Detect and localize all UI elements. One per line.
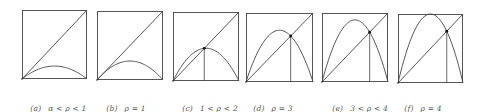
panel-c [173,12,239,81]
fixed-point-dot [203,47,206,50]
plot-c [173,12,239,81]
logistic-curve [246,30,313,82]
diagonal-line [97,11,163,80]
caption-tag: (c) [182,104,193,112]
plot-a [22,10,87,79]
logistic-curve [173,48,239,81]
origin-dot [245,81,247,83]
origin-dot [321,81,323,83]
plot-d [246,13,313,82]
fixed-point-dot [445,30,448,33]
caption-condition: ρ = 3 [272,104,293,112]
plot-e [322,13,388,82]
panel-a [22,10,87,79]
caption-condition: 3 < ρ < 4 [350,104,388,112]
panel-f [398,14,463,83]
caption-b: (b)ρ = 1 [96,95,146,112]
diagonal-line [173,12,239,81]
caption-c: (c)1 < ρ < 2 [172,95,238,112]
fixed-point-dot [368,31,371,34]
plot-b [97,11,163,80]
plot-f [398,14,463,83]
fixed-point-dot [289,35,292,38]
caption-tag: (e) [332,104,343,112]
origin-dot [21,78,23,80]
diagonal-line [322,13,388,82]
caption-condition: 1 < ρ < 2 [200,104,238,112]
caption-f: (f)ρ = 4 [394,95,442,112]
panel-d [246,13,313,82]
caption-tag: (f) [404,104,413,112]
logistic-curve [97,61,163,80]
origin-dot [172,80,174,82]
caption-condition: ρ = 4 [421,104,442,112]
diagonal-line [22,10,87,79]
origin-dot [96,79,98,81]
diagonal-line [246,13,313,82]
panel-b [97,11,163,80]
caption-condition: α < ρ < 1 [48,104,86,112]
caption-d: (d)ρ = 3 [243,95,293,112]
caption-e: (e)3 < ρ < 4 [322,95,388,112]
caption-a: (a)α < ρ < 1 [20,95,86,112]
caption-condition: ρ = 1 [125,104,146,112]
caption-tag: (b) [106,104,117,112]
caption-tag: (a) [30,104,41,112]
caption-tag: (d) [253,104,264,112]
logistic-curve [322,20,388,82]
origin-dot [397,82,399,84]
panel-e [322,13,388,82]
